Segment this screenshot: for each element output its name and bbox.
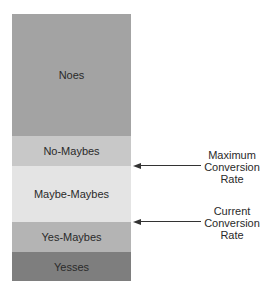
segment-label: Noes bbox=[59, 69, 85, 81]
segment-yesses: Yesses bbox=[12, 252, 131, 281]
segment-label: No-Maybes bbox=[43, 145, 99, 157]
annotation-maximum-conversion-rate: Maximum Conversion Rate bbox=[192, 149, 272, 185]
annotation-line: Rate bbox=[192, 173, 272, 185]
segment-no-maybes: No-Maybes bbox=[12, 136, 131, 166]
annotation-line: Conversion bbox=[192, 217, 272, 229]
arrow-left-icon bbox=[133, 163, 141, 169]
annotation-line: Rate bbox=[192, 229, 272, 241]
annotation-line: Conversion bbox=[192, 161, 272, 173]
annotation-current-conversion-rate: Current Conversion Rate bbox=[192, 205, 272, 241]
segment-label: Yes-Maybes bbox=[41, 231, 101, 243]
segment-maybe-maybes: Maybe-Maybes bbox=[12, 166, 131, 222]
segment-label: Maybe-Maybes bbox=[34, 188, 109, 200]
annotation-line: Current bbox=[192, 205, 272, 217]
segment-label: Yesses bbox=[54, 261, 89, 273]
annotation-line: Maximum bbox=[192, 149, 272, 161]
segment-noes: Noes bbox=[12, 14, 131, 136]
arrow-left-icon bbox=[133, 219, 141, 225]
segment-yes-maybes: Yes-Maybes bbox=[12, 222, 131, 252]
